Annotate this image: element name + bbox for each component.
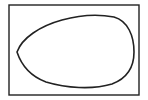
egg-shape-outline — [17, 15, 134, 87]
diagram-canvas — [0, 0, 148, 100]
